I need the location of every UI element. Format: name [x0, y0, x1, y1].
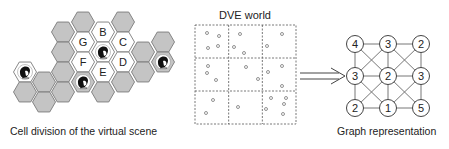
node-weight: 3: [418, 70, 424, 82]
hex-cell: [112, 12, 135, 32]
graph-node: 4: [347, 36, 364, 53]
hex-cell: [132, 42, 155, 62]
entity-point: [281, 33, 284, 36]
entity-point: [206, 32, 209, 35]
cell-label: E: [99, 66, 106, 78]
node-weight: 2: [418, 38, 424, 50]
node-weight: 3: [352, 70, 358, 82]
hex-cell-grid: GFBECD: [14, 12, 175, 112]
graph-node: 1: [380, 100, 397, 117]
entity-point: [281, 85, 284, 88]
node-weight: 1: [385, 102, 391, 114]
entity-point: [206, 72, 209, 75]
hex-cell: [14, 82, 37, 102]
node-weight: 3: [385, 38, 391, 50]
node-weight: 4: [352, 38, 358, 50]
dve-world-grid: [195, 25, 296, 124]
entity-point: [239, 33, 242, 36]
entity-point: [217, 45, 220, 48]
entity-point: [245, 66, 248, 69]
cell-label: C: [119, 36, 127, 48]
hex-cell: [152, 32, 175, 52]
graph-node: 5: [413, 100, 430, 117]
entity-point: [212, 99, 215, 102]
cell-label: F: [80, 56, 87, 68]
entity-point: [283, 103, 286, 106]
hex-cell-d: D: [112, 52, 135, 72]
entity-point: [265, 108, 268, 111]
user-avatar-icon: [96, 45, 111, 60]
hex-cell: [52, 42, 75, 62]
hex-cell: [112, 72, 135, 92]
hex-cell: [14, 62, 37, 82]
hex-cell-f: F: [72, 52, 95, 72]
hex-cell: [152, 52, 175, 72]
entity-point: [215, 79, 218, 82]
cell-label: D: [119, 56, 127, 68]
entity-point: [207, 47, 210, 50]
hex-cell: [72, 12, 95, 32]
hex-cell: [52, 62, 75, 82]
entity-point: [282, 113, 285, 116]
hex-cell: [92, 82, 115, 102]
double-arrow-icon: [300, 68, 345, 84]
dve-world-title: DVE world: [219, 9, 271, 21]
hex-cell: [132, 62, 155, 82]
user-avatar-icon: [156, 55, 171, 70]
hex-cell-c: C: [112, 32, 135, 52]
caption-cell-division: Cell division of the virtual scene: [10, 125, 157, 137]
graph-node: 3: [380, 36, 397, 53]
user-avatar-icon: [76, 75, 91, 90]
entity-point: [270, 97, 273, 100]
dve-world-border: [195, 25, 296, 124]
entity-point: [237, 106, 240, 109]
graph-node: 2: [380, 68, 397, 85]
node-weight: 5: [418, 102, 424, 114]
entity-point: [218, 35, 221, 38]
graph-node: 2: [347, 100, 364, 117]
entity-point: [257, 78, 260, 81]
hex-cell: [72, 72, 95, 92]
entity-point: [207, 65, 210, 68]
caption-graph-representation: Graph representation: [337, 125, 436, 137]
hex-cell: [92, 42, 115, 62]
node-weight: 2: [352, 102, 358, 114]
entity-point: [233, 46, 236, 49]
entity-point: [243, 52, 246, 55]
hex-cell: [33, 92, 56, 112]
entity-point: [267, 71, 270, 74]
user-avatar-icon: [18, 65, 33, 80]
node-weight: 2: [385, 70, 391, 82]
cell-label: G: [79, 36, 88, 48]
entity-point: [205, 112, 208, 115]
graph-representation: 432323215: [347, 36, 430, 117]
cell-label: B: [99, 26, 106, 38]
hex-cell-b: B: [92, 22, 115, 42]
hex-cell-e: E: [92, 62, 115, 82]
hex-cell: [52, 22, 75, 42]
graph-node: 2: [413, 36, 430, 53]
hex-cell-g: G: [72, 32, 95, 52]
entity-point: [285, 97, 288, 100]
hex-cell: [33, 72, 56, 92]
hex-cell: [52, 82, 75, 102]
graph-node: 3: [347, 68, 364, 85]
graph-node: 3: [413, 68, 430, 85]
entity-point: [266, 45, 269, 48]
entity-point: [281, 65, 284, 68]
